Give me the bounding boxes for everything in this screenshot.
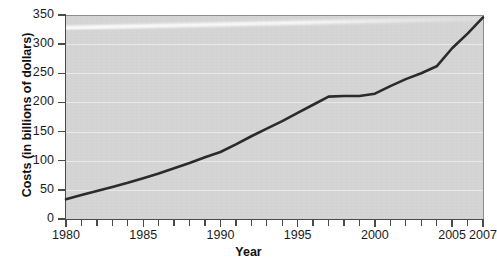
chart-figure: 050100150200250300350 198019851990199520… xyxy=(0,0,497,261)
y-axis-title: Costs (in billions of dollars) xyxy=(20,5,34,225)
x-axis-title: Year xyxy=(0,245,497,259)
series-line-costs xyxy=(66,17,483,199)
data-series-layer xyxy=(0,0,497,261)
